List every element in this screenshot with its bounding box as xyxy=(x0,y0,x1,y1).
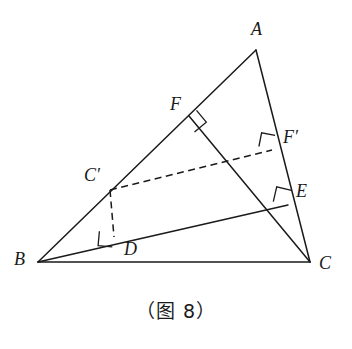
vertex-label-E: E xyxy=(296,182,307,200)
vertex-label-F: F xyxy=(170,95,181,113)
geometry-figure: A B C F E C′ F′ D （图 8） xyxy=(0,0,352,349)
vertex-label-D: D xyxy=(124,240,137,258)
right-angle-at-E xyxy=(273,187,291,202)
vertex-label-C: C xyxy=(319,254,331,272)
segment-CprimeD xyxy=(110,190,114,237)
right-angle-at-Fprime xyxy=(259,133,275,147)
vertex-label-B: B xyxy=(14,250,25,268)
segment-AB xyxy=(38,50,256,262)
segment-BE xyxy=(38,205,288,262)
right-angle-at-D xyxy=(98,231,112,247)
vertex-label-F-prime: F′ xyxy=(283,128,298,146)
figure-caption: （图 8） xyxy=(0,296,352,323)
segment-CprimeFprime xyxy=(110,150,272,190)
vertex-label-C-prime: C′ xyxy=(84,166,100,184)
vertex-label-A: A xyxy=(251,20,262,38)
